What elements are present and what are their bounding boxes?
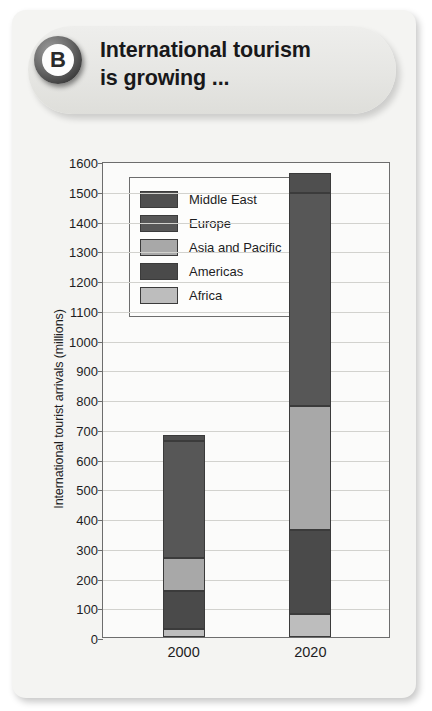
gridline [103, 431, 389, 432]
panel-badge: B [34, 36, 82, 84]
y-axis-tick-mark [98, 371, 103, 372]
y-axis-tick-mark [98, 550, 103, 551]
chart-figure: International tourist arrivals (millions… [14, 122, 414, 692]
y-axis-tick-mark [98, 163, 103, 164]
gridline [103, 193, 389, 194]
y-axis-tick-label: 300 [42, 542, 98, 557]
y-axis-tick-label: 1300 [42, 245, 98, 260]
y-axis-tick-mark [98, 312, 103, 313]
gridline [103, 342, 389, 343]
y-axis-tick-label: 1600 [42, 156, 98, 171]
gridline [103, 550, 389, 551]
bar-segment-asia-and-pacific[interactable] [163, 558, 205, 591]
bar-segment-europe[interactable] [289, 193, 331, 407]
panel-badge-letter: B [50, 49, 66, 71]
legend-label: Middle East [189, 192, 257, 207]
gridline [103, 580, 389, 581]
gridline [103, 223, 389, 224]
y-axis-tick-mark [98, 431, 103, 432]
y-axis-tick-label: 700 [42, 423, 98, 438]
gridline [103, 609, 389, 610]
y-axis-tick-mark [98, 252, 103, 253]
header-title-line2: is growing ... [100, 64, 380, 92]
legend-swatch [140, 263, 178, 280]
y-axis-tick-mark [98, 520, 103, 521]
panel-badge-inner: B [42, 44, 74, 76]
header-title-line1: International tourism [100, 38, 311, 62]
legend-item-africa[interactable]: Africa [140, 283, 306, 307]
bar-segment-middle-east[interactable] [289, 173, 331, 193]
header-banner: International tourism is growing ... [28, 26, 396, 114]
bar-2000[interactable] [163, 435, 205, 637]
y-axis-tick-mark [98, 223, 103, 224]
bar-2020[interactable] [289, 173, 331, 637]
x-axis-tick-label: 2000 [124, 644, 244, 660]
gridline [103, 401, 389, 402]
y-axis-tick-label: 1000 [42, 334, 98, 349]
y-axis-tick-label: 400 [42, 513, 98, 528]
figure-card: International tourism is growing ... B I… [12, 10, 416, 698]
gridline [103, 371, 389, 372]
y-axis-tick-label: 200 [42, 572, 98, 587]
bar-segment-africa[interactable] [163, 629, 205, 637]
legend-swatch [140, 287, 178, 304]
y-axis-tick-mark [98, 609, 103, 610]
bar-segment-asia-and-pacific[interactable] [289, 406, 331, 530]
gridline [103, 520, 389, 521]
chart-legend: Middle EastEuropeAsia and PacificAmerica… [129, 177, 315, 317]
plot-area: Middle EastEuropeAsia and PacificAmerica… [102, 162, 390, 638]
y-axis-tick-label: 800 [42, 394, 98, 409]
y-axis-tick-mark [98, 490, 103, 491]
bar-segment-africa[interactable] [289, 614, 331, 637]
y-axis-tick-mark [98, 401, 103, 402]
y-axis-tick-label: 1500 [42, 185, 98, 200]
bar-segment-americas[interactable] [289, 530, 331, 614]
y-axis-tick-mark [98, 580, 103, 581]
bar-segment-middle-east[interactable] [163, 435, 205, 442]
gridline [103, 461, 389, 462]
legend-item-americas[interactable]: Americas [140, 259, 306, 283]
legend-item-middle-east[interactable]: Middle East [140, 187, 306, 211]
y-axis-tick-mark [98, 282, 103, 283]
legend-label: Americas [189, 264, 243, 279]
y-axis-tick-mark [98, 193, 103, 194]
legend-label: Africa [189, 288, 222, 303]
gridline [103, 282, 389, 283]
y-axis-tick-label: 1100 [42, 304, 98, 319]
screenshot-root: International tourism is growing ... B I… [0, 0, 432, 711]
y-axis-tick-mark [98, 342, 103, 343]
y-axis-tick-label: 500 [42, 483, 98, 498]
y-axis-tick-label: 1200 [42, 275, 98, 290]
gridline [103, 312, 389, 313]
y-axis-tick-label: 0 [42, 632, 98, 647]
y-axis-tick-mark [98, 461, 103, 462]
y-axis-tick-mark [98, 639, 103, 640]
gridline [103, 490, 389, 491]
gridline [103, 252, 389, 253]
y-axis-tick-label: 1400 [42, 215, 98, 230]
y-axis-tick-label: 900 [42, 364, 98, 379]
legend-item-asia-and-pacific[interactable]: Asia and Pacific [140, 235, 306, 259]
x-axis-tick-label: 2020 [250, 644, 370, 660]
y-axis-tick-label: 600 [42, 453, 98, 468]
y-axis-tick-label: 100 [42, 602, 98, 617]
bar-segment-americas[interactable] [163, 591, 205, 629]
bar-segment-europe[interactable] [163, 441, 205, 558]
header-title: International tourism is growing ... [100, 36, 380, 92]
